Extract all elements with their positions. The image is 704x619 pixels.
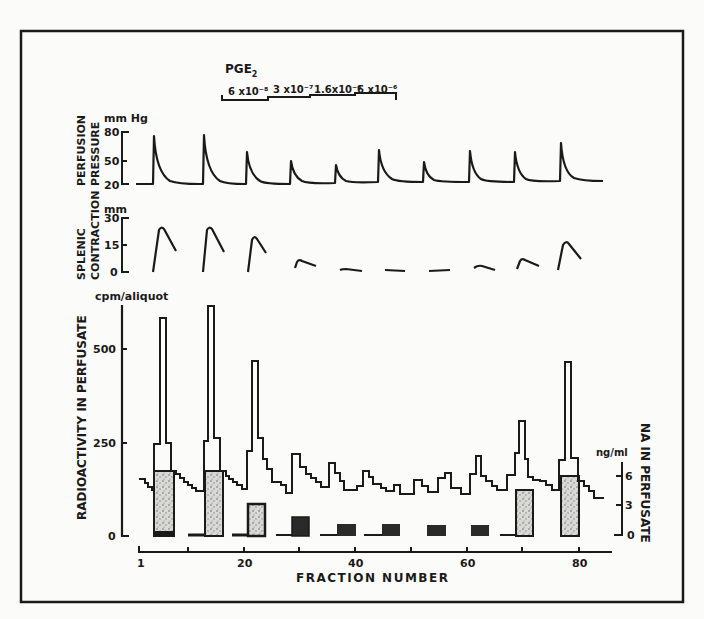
svg-text:NA IN PERFUSATE: NA IN PERFUSATE bbox=[638, 423, 652, 543]
svg-text:SPLENIC: SPLENIC bbox=[75, 228, 88, 280]
perfusion-panel: PERFUSION PRESSURE mm Hg 80 50 20 bbox=[75, 112, 603, 192]
svg-text:PRESSURE: PRESSURE bbox=[89, 122, 102, 186]
svg-text:PERFUSION: PERFUSION bbox=[75, 115, 88, 186]
radioactivity-panel: RADIOACTIVITY IN PERFUSATE cpm/aliquot 5… bbox=[75, 290, 652, 585]
svg-text:3: 3 bbox=[625, 499, 633, 512]
na-bars bbox=[154, 471, 579, 536]
svg-text:mm Hg: mm Hg bbox=[104, 112, 148, 125]
svg-text:15: 15 bbox=[104, 239, 119, 252]
pge2-annotation: PGE2 6 x10⁻⁸ 3 x10⁻⁷ 1.6x10⁻⁶ 6 x10⁻⁶ bbox=[222, 62, 397, 100]
x-axis bbox=[139, 546, 612, 552]
x-axis-title: FRACTION NUMBER bbox=[296, 571, 449, 585]
svg-text:1: 1 bbox=[137, 557, 145, 570]
svg-text:250: 250 bbox=[93, 437, 116, 450]
svg-text:80: 80 bbox=[104, 126, 120, 139]
pge2-label: PGE2 bbox=[225, 62, 257, 79]
svg-text:500: 500 bbox=[93, 343, 116, 356]
splenic-trace bbox=[153, 228, 581, 272]
svg-text:30: 30 bbox=[104, 212, 120, 225]
svg-text:20: 20 bbox=[104, 179, 120, 192]
svg-text:0: 0 bbox=[627, 529, 635, 542]
svg-text:0: 0 bbox=[108, 530, 116, 543]
dose-1: 6 x10⁻⁸ bbox=[228, 86, 268, 97]
splenic-panel: SPLENIC CONTRACTION mm 30 15 0 bbox=[75, 191, 581, 280]
svg-text:80: 80 bbox=[572, 557, 588, 570]
radioactivity-trace bbox=[139, 306, 604, 498]
svg-text:0: 0 bbox=[110, 266, 118, 279]
perfusion-trace bbox=[136, 135, 603, 184]
svg-text:RADIOACTIVITY IN PERFUSATE: RADIOACTIVITY IN PERFUSATE bbox=[75, 315, 89, 520]
svg-text:60: 60 bbox=[460, 557, 476, 570]
svg-text:ng/ml: ng/ml bbox=[596, 447, 628, 458]
svg-text:20: 20 bbox=[237, 557, 253, 570]
svg-text:CONTRACTION: CONTRACTION bbox=[89, 191, 102, 280]
svg-text:6: 6 bbox=[625, 470, 633, 483]
svg-text:cpm/aliquot: cpm/aliquot bbox=[95, 290, 168, 303]
svg-text:50: 50 bbox=[104, 155, 120, 168]
svg-text:40: 40 bbox=[348, 557, 364, 570]
dose-2: 3 x10⁻⁷ bbox=[273, 84, 313, 95]
figure: PGE2 6 x10⁻⁸ 3 x10⁻⁷ 1.6x10⁻⁶ 6 x10⁻⁶ PE… bbox=[0, 0, 704, 619]
